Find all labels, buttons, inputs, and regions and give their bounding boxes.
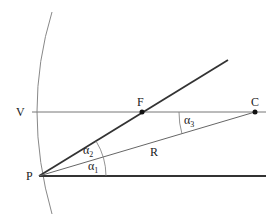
label-c: C [251, 95, 259, 109]
label-alpha2: α2 [83, 143, 93, 159]
label-r: R [150, 145, 158, 159]
label-alpha1: α1 [88, 159, 98, 175]
label-p: P [26, 169, 33, 183]
label-v: V [16, 105, 25, 119]
point-f [140, 110, 145, 115]
mirror-arc [37, 12, 52, 214]
label-f: F [137, 95, 144, 109]
radius-line-pc [39, 112, 255, 176]
label-alpha3: α3 [184, 113, 194, 129]
optics-diagram: V F C P R α2 α1 α3 [0, 0, 279, 216]
point-c [253, 110, 258, 115]
ray-pf [39, 60, 228, 176]
angle-arc-c [179, 112, 182, 134]
